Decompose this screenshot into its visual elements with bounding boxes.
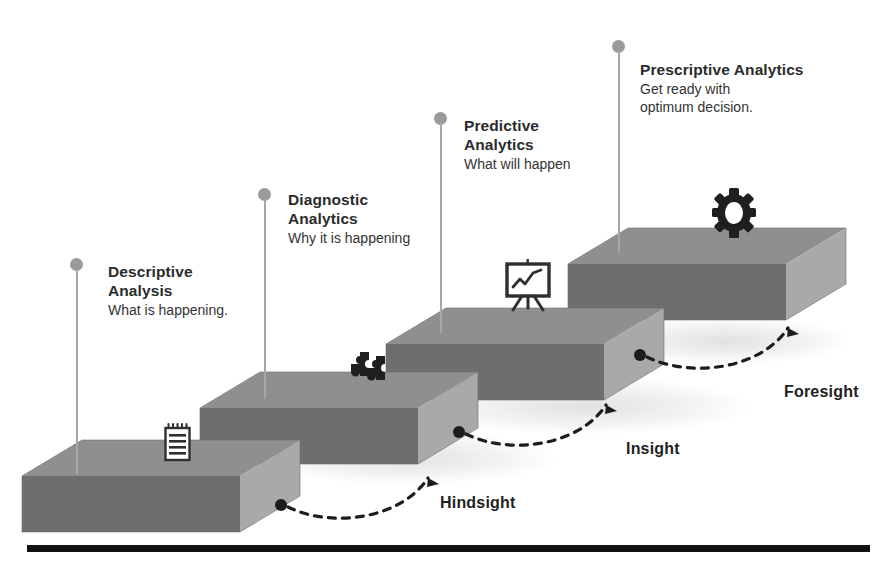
stage-subtitle: What will happen bbox=[464, 155, 571, 173]
baseline-bar bbox=[27, 545, 870, 552]
stage-subtitle: Why it is happening bbox=[288, 229, 410, 247]
puzzle-icon bbox=[345, 348, 393, 392]
stage-label-prescriptive: Prescriptive Analytics Get ready with op… bbox=[640, 60, 804, 116]
transition-label-hindsight: Hindsight bbox=[440, 494, 516, 512]
stage-title: Descriptive Analysis bbox=[108, 262, 228, 300]
stage-subtitle: Get ready with optimum decision. bbox=[640, 80, 804, 116]
transition-label-insight: Insight bbox=[626, 440, 680, 458]
pin-stem bbox=[440, 123, 442, 333]
stage-label-predictive: Predictive Analytics What will happen bbox=[464, 116, 571, 173]
analytics-maturity-diagram: Descriptive Analysis What is happening. … bbox=[0, 0, 886, 565]
pin-stem bbox=[76, 269, 78, 474]
chart-easel-icon bbox=[500, 258, 556, 312]
stage-subtitle: What is happening. bbox=[108, 301, 228, 319]
notepad-icon bbox=[163, 422, 193, 466]
pin-stem bbox=[618, 51, 620, 253]
stage-title: Prescriptive Analytics bbox=[640, 60, 804, 79]
stage-title: Predictive Analytics bbox=[464, 116, 571, 154]
gear-icon bbox=[712, 188, 756, 238]
transition-label-foresight: Foresight bbox=[784, 383, 859, 401]
stage-label-diagnostic: Diagnostic Analytics Why it is happening bbox=[288, 190, 410, 247]
pin-stem bbox=[264, 199, 266, 399]
stage-title: Diagnostic Analytics bbox=[288, 190, 410, 228]
stage-label-descriptive: Descriptive Analysis What is happening. bbox=[108, 262, 228, 319]
